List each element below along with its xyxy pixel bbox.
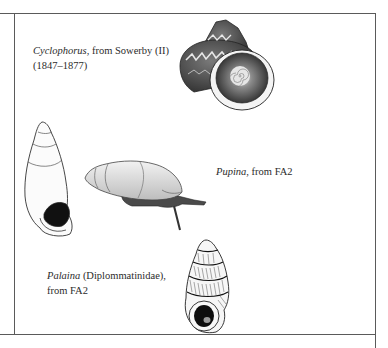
caption-text: , from Sowerby (II) [87,45,169,56]
caption-pupina: Pupina, from FA2 [216,165,336,180]
left-rule [14,13,15,335]
caption-genus: Pupina [216,166,246,177]
caption-text: (Diplommatinidae), [80,270,166,281]
pupina-snail-illustration [82,150,212,245]
right-rule [375,13,376,348]
palaina-shell-illustration [180,238,232,334]
bottom-rule [0,334,376,335]
caption-text: from FA2 [47,285,88,296]
cyclophorus-shell-illustration [172,14,292,114]
tall-conical-shell-illustration [18,118,78,238]
caption-palaina: Palaina (Diplommatinidae), from FA2 [47,269,167,298]
caption-text: , from FA2 [246,166,292,177]
caption-cyclophorus: Cyclophorus, from Sowerby (II) (1847–187… [33,44,183,73]
caption-genus: Palaina [47,270,80,281]
caption-text: (1847–1877) [33,60,87,71]
caption-genus: Cyclophorus [33,45,87,56]
